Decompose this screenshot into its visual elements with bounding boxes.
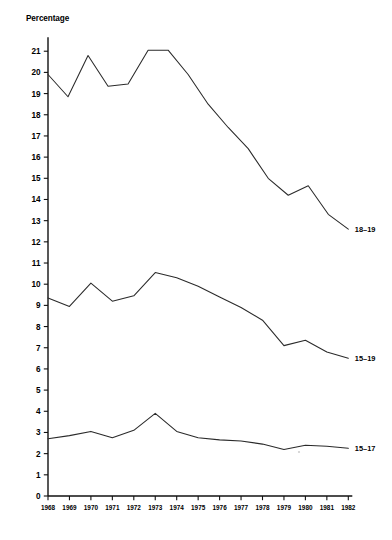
x-tick-label-1976: 1976 <box>212 504 227 511</box>
y-tick-label-20: 20 <box>31 68 41 77</box>
x-axis-tick-group: 1968196919701971197219731974197519761977… <box>41 496 356 511</box>
x-tick-label-1977: 1977 <box>234 504 249 511</box>
x-tick-label-1982: 1982 <box>341 504 356 511</box>
y-tick-label-0: 0 <box>36 492 41 501</box>
y-tick-label-19: 19 <box>31 90 41 99</box>
y-tick-label-3: 3 <box>36 428 41 437</box>
y-tick-label-1: 1 <box>36 471 41 480</box>
series-label-15-17: 15–17 <box>355 444 376 453</box>
y-tick-label-15: 15 <box>31 174 41 183</box>
y-tick-label-10: 10 <box>31 280 41 289</box>
x-tick-label-1973: 1973 <box>148 504 163 511</box>
x-tick-label-1970: 1970 <box>84 504 99 511</box>
series-line-15-17 <box>48 413 348 449</box>
series-label-15-19: 15–19 <box>355 354 376 363</box>
series-line-18-19 <box>48 50 348 229</box>
y-tick-label-13: 13 <box>31 217 41 226</box>
y-tick-label-18: 18 <box>31 111 41 120</box>
y-tick-label-11: 11 <box>32 259 41 268</box>
series-label-18-19: 18–19 <box>355 225 376 234</box>
y-tick-label-14: 14 <box>31 195 41 204</box>
x-tick-label-1975: 1975 <box>191 504 206 511</box>
scan-speck <box>298 451 300 453</box>
x-tick-label-1981: 1981 <box>320 504 335 511</box>
series-label-group: 18–1915–1915–17 <box>355 225 376 453</box>
chart-container: Percentage 01234567891011121314151617181… <box>0 0 392 540</box>
x-tick-label-1978: 1978 <box>255 504 270 511</box>
x-tick-label-1974: 1974 <box>170 504 185 511</box>
y-tick-label-16: 16 <box>31 153 41 162</box>
y-tick-label-5: 5 <box>36 386 41 395</box>
x-tick-label-1980: 1980 <box>298 504 313 511</box>
y-tick-label-17: 17 <box>31 132 41 141</box>
y-tick-label-7: 7 <box>36 344 41 353</box>
line-chart-plot: 0123456789101112131415161718192021 19681… <box>0 0 392 540</box>
y-tick-label-12: 12 <box>31 238 41 247</box>
x-tick-label-1969: 1969 <box>62 504 77 511</box>
y-tick-label-2: 2 <box>36 450 41 459</box>
y-tick-label-4: 4 <box>36 407 41 416</box>
x-tick-label-1972: 1972 <box>127 504 142 511</box>
x-tick-label-1971: 1971 <box>105 504 120 511</box>
y-tick-label-21: 21 <box>31 47 41 56</box>
x-tick-label-1968: 1968 <box>41 504 56 511</box>
y-tick-label-9: 9 <box>36 301 41 310</box>
x-tick-label-1979: 1979 <box>277 504 292 511</box>
y-axis-tick-group: 0123456789101112131415161718192021 <box>31 47 48 501</box>
y-tick-label-8: 8 <box>36 323 41 332</box>
y-tick-label-6: 6 <box>36 365 41 374</box>
series-line-15-19 <box>48 273 348 359</box>
series-group <box>48 50 348 449</box>
